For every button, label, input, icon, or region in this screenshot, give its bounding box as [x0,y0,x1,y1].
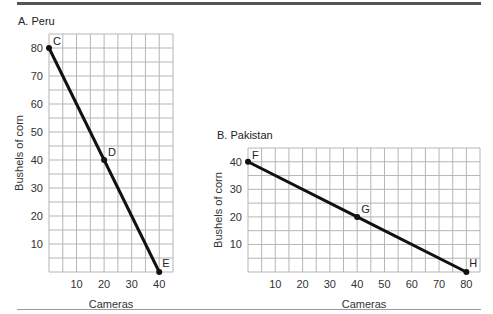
point-label: E [162,257,169,269]
x-tick-label: 40 [351,278,363,290]
data-point-g [354,214,360,220]
x-tick-label: 70 [433,278,445,290]
x-tick-label: 60 [406,278,418,290]
y-axis-label: Bushels of corn [212,172,224,248]
x-tick-label: 30 [126,278,138,290]
y-tick-label: 30 [230,183,242,195]
x-tick-label: 50 [378,278,390,290]
point-label: F [252,149,259,161]
y-tick-label: 70 [31,70,43,82]
data-point-e [156,269,162,275]
y-tick-label: 30 [31,182,43,194]
x-axis-label: Cameras [342,298,387,310]
y-tick-label: 40 [230,156,242,168]
chart-title: B. Pakistan [217,129,273,141]
data-point-h [463,269,469,275]
point-label: C [53,35,61,47]
y-tick-label: 10 [230,238,242,250]
chart-title: A. Peru [18,15,55,27]
data-point-d [101,157,107,163]
x-tick-label: 40 [153,278,165,290]
y-tick-label: 10 [31,238,43,250]
x-tick-label: 80 [460,278,472,290]
y-tick-label: 80 [31,42,43,54]
chart-pakistan: B. Pakistan102030405060708010203040Camer… [212,129,480,310]
x-tick-label: 10 [269,278,281,290]
point-label: H [469,257,477,269]
y-tick-label: 50 [31,126,43,138]
x-tick-label: 20 [296,278,308,290]
x-axis-label: Cameras [89,298,134,310]
y-tick-label: 20 [31,210,43,222]
y-axis-label: Bushels of corn [13,115,25,191]
point-label: G [361,203,370,215]
y-tick-label: 40 [31,154,43,166]
y-tick-label: 20 [230,211,242,223]
data-point-f [245,159,251,165]
x-tick-label: 30 [324,278,336,290]
chart-peru: A. Peru102030401020304050607080CamerasBu… [13,15,173,310]
x-tick-label: 10 [70,278,82,290]
y-tick-label: 60 [31,98,43,110]
x-tick-label: 20 [98,278,110,290]
charts-canvas: A. Peru102030401020304050607080CamerasBu… [0,0,493,314]
point-label: D [108,146,116,158]
data-point-c [46,45,52,51]
